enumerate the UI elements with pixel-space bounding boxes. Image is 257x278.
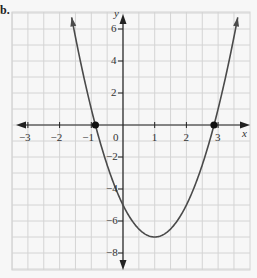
- x-tick-label-0: 0: [113, 132, 119, 143]
- y-tick-label: −2: [106, 151, 118, 162]
- y-tick-label: −6: [106, 215, 118, 226]
- x-tick-label: −3: [19, 132, 31, 143]
- y-tick-label: −4: [106, 183, 118, 194]
- y-tick-label: 2: [111, 87, 117, 98]
- y-axis-label: y: [114, 8, 119, 19]
- x-tick-label: 1: [152, 132, 158, 143]
- y-tick-label: −8: [106, 247, 118, 258]
- y-tick-label: 6: [111, 23, 117, 34]
- x-tick-label: 3: [215, 132, 221, 143]
- x-tick-label: 2: [183, 132, 189, 143]
- x-tick-label: −2: [51, 132, 63, 143]
- x-tick-label: −1: [82, 132, 94, 143]
- x-axis-label: x: [242, 128, 247, 139]
- y-tick-label: 4: [111, 55, 117, 66]
